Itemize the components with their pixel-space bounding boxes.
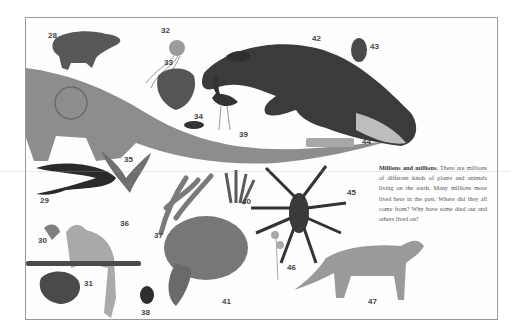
label-47: 47	[368, 297, 377, 306]
label-43: 43	[370, 42, 379, 51]
paragraph-body: There are millions of different kinds of…	[379, 164, 487, 222]
label-36: 36	[120, 219, 129, 228]
label-33: 33	[164, 58, 173, 67]
label-40: 40	[242, 197, 251, 206]
label-35: 35	[124, 155, 133, 164]
label-32: 32	[161, 26, 170, 35]
scan-artifact-line	[0, 171, 511, 172]
label-31: 31	[84, 279, 93, 288]
description-paragraph: Millions and millions. There are million…	[379, 163, 487, 224]
book-page: Millions and millions. There are million…	[25, 17, 498, 320]
label-46: 46	[287, 263, 296, 272]
paragraph-heading: Millions and millions.	[379, 164, 438, 171]
label-38: 38	[141, 308, 150, 317]
label-34: 34	[194, 112, 203, 121]
label-41: 41	[222, 297, 231, 306]
label-37: 37	[154, 231, 163, 240]
label-39: 39	[239, 130, 248, 139]
label-28: 28	[48, 31, 57, 40]
label-44: 44	[362, 137, 371, 146]
label-29: 29	[40, 196, 49, 205]
label-30: 30	[38, 236, 47, 245]
label-45: 45	[347, 188, 356, 197]
label-42: 42	[312, 34, 321, 43]
